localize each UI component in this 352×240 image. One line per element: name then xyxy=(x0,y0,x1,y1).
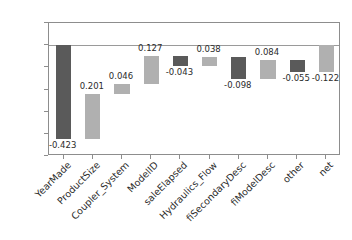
x-category-label-coupler_system: Coupler_System xyxy=(70,160,131,221)
bar-value-label: 0.046 xyxy=(109,72,133,81)
x-tick-mark xyxy=(296,155,297,159)
bar-productsize xyxy=(85,94,100,139)
waterfall-chart-figure: 0.1000.000-0.100-0.200-0.300-0.400-0.500… xyxy=(0,0,352,240)
bar-value-label: 0.084 xyxy=(255,48,279,57)
x-tick-mark xyxy=(238,155,239,159)
x-tick-mark xyxy=(63,155,64,159)
bar-hydraulics_flow xyxy=(202,57,217,65)
bar-value-label: 0.201 xyxy=(80,82,104,91)
bar-fisecondarydesc xyxy=(231,57,246,79)
bar-coupler_system xyxy=(114,84,129,94)
y-tick-mark xyxy=(44,66,48,67)
bar-value-label: -0.122 xyxy=(312,74,339,83)
bar-value-label: 0.127 xyxy=(138,44,162,53)
x-tick-mark xyxy=(150,155,151,159)
bar-value-label: -0.055 xyxy=(282,74,309,83)
x-tick-mark xyxy=(209,155,210,159)
bar-value-label: -0.423 xyxy=(49,141,76,150)
bar-fimodeldesc xyxy=(260,60,275,79)
bar-other xyxy=(290,60,305,72)
bar-modelid xyxy=(144,56,159,84)
bar-value-label: -0.098 xyxy=(224,81,251,90)
bar-value-label: 0.038 xyxy=(196,45,220,54)
bar-yearmade xyxy=(56,45,71,139)
x-category-label-net: net xyxy=(317,160,335,178)
x-tick-mark xyxy=(92,155,93,159)
bar-net xyxy=(319,45,334,72)
y-tick-mark xyxy=(44,111,48,112)
x-category-label-other: other xyxy=(281,160,306,185)
bar-value-label: -0.043 xyxy=(166,68,193,77)
y-tick-mark xyxy=(44,89,48,90)
y-tick-mark xyxy=(44,155,48,156)
y-tick-mark xyxy=(44,22,48,23)
bar-saleelapsed xyxy=(173,56,188,66)
x-tick-mark xyxy=(267,155,268,159)
y-tick-mark xyxy=(44,133,48,134)
x-tick-mark xyxy=(121,155,122,159)
y-tick-mark xyxy=(44,44,48,45)
zero-baseline xyxy=(49,45,339,46)
